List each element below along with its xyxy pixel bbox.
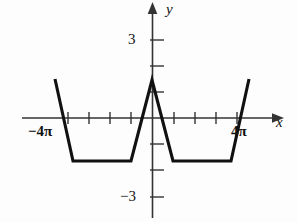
y-axis-arrow-icon (148, 2, 158, 14)
x-tick-label-4pi: 4π (231, 124, 247, 139)
x-tick-label-negative-4pi: −4π (28, 124, 52, 139)
y-tick-label-3: 3 (128, 32, 136, 47)
y-tick-label-negative-3: −3 (120, 189, 136, 204)
y-axis (148, 2, 158, 218)
x-axis-label: x (276, 115, 283, 130)
coordinate-plot (0, 0, 298, 222)
graph-figure: y x 3 −3 −4π 4π (0, 0, 298, 222)
y-axis-label: y (166, 2, 173, 17)
